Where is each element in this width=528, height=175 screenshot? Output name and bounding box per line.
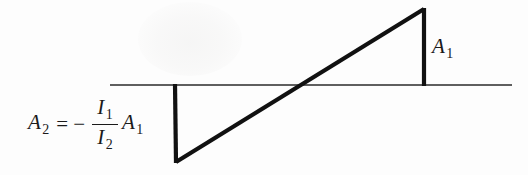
equation-rhs: A1 [122,112,143,137]
rhs-symbol: A [122,110,135,134]
lhs-subscript: 2 [41,122,50,137]
fraction-denominator: I2 [94,127,116,152]
numerator-subscript: 1 [104,107,113,122]
rhs-subscript: 1 [135,122,144,137]
sawtooth-aperture-figure: A2 = − I1 I2 A1 A1 [0,0,528,175]
equals-sign: = [56,114,68,135]
equation-lhs: A2 [28,112,49,137]
fraction-bar [92,124,118,126]
amplitude-1-subscript: 1 [445,46,454,61]
intensity-ratio-fraction: I1 I2 [92,97,118,152]
fraction-numerator: I1 [94,97,116,122]
denominator-subscript: 2 [104,137,113,152]
lhs-symbol: A [28,110,41,134]
left-vertical-drop-line [175,84,176,163]
minus-sign: − [73,114,85,135]
amplitude-1-symbol: A [432,34,445,58]
amplitude-1-label: A1 [432,36,453,61]
amplitude-ratio-equation: A2 = − I1 I2 A1 [28,97,143,152]
